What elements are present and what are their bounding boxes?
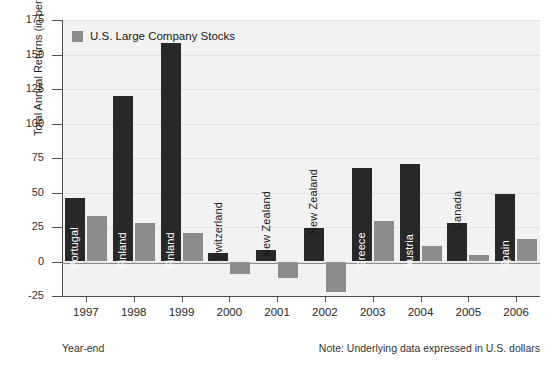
gridline [62, 20, 540, 21]
footnote-right: Note: Underlying data expressed in U.S. … [319, 342, 540, 354]
x-tick-label: 2005 [456, 306, 482, 318]
bar-us-large-company-stocks [183, 233, 203, 262]
gridline [62, 227, 540, 228]
gridline [62, 89, 540, 90]
bar-us-large-company-stocks [278, 262, 298, 279]
x-tick-label: 1999 [169, 306, 195, 318]
y-tick-mark [52, 89, 62, 90]
chart-root: -250255075100125150175 Total Annual Retu… [0, 0, 556, 366]
y-tick-label: 25 [0, 221, 44, 232]
x-tick-mark [468, 296, 469, 302]
bar-us-large-company-stocks [422, 246, 442, 261]
y-tick-mark [52, 296, 62, 297]
x-tick-mark [325, 296, 326, 302]
bar-us-large-company-stocks [374, 221, 394, 261]
x-tick-label: 2004 [408, 306, 434, 318]
gridline [62, 55, 540, 56]
bar-us-large-company-stocks [469, 255, 489, 262]
x-tick-mark [373, 296, 374, 302]
x-tick-mark [277, 296, 278, 302]
bar-country-label: Portugal [69, 227, 80, 269]
bar-country-label: Greece [356, 232, 367, 269]
bar-country-label: Canada [452, 191, 463, 230]
bar-us-large-company-stocks [230, 262, 250, 274]
x-tick-mark [421, 296, 422, 302]
x-tick-label: 1998 [121, 306, 147, 318]
y-tick-label: 50 [0, 187, 44, 198]
x-tick-mark [182, 296, 183, 302]
bar-country-label: Austria [404, 234, 415, 269]
bar-country-label: Switzerland [213, 202, 224, 260]
bar-us-large-company-stocks [517, 239, 537, 261]
x-tick-mark [516, 296, 517, 302]
legend: U.S. Large Company Stocks [72, 30, 235, 42]
y-tick-mark [52, 20, 62, 21]
x-tick-mark [134, 296, 135, 302]
bar-us-large-company-stocks [87, 216, 107, 262]
y-tick-mark [52, 262, 62, 263]
bar-country-label: Finland [165, 232, 176, 269]
x-tick-mark [86, 296, 87, 302]
bar-country-label: Finland [117, 232, 128, 269]
bar-best-country [161, 43, 181, 261]
y-tick-mark [52, 158, 62, 159]
bar-country-label: New Zealand [308, 169, 319, 235]
y-tick-mark [52, 227, 62, 228]
bar-us-large-company-stocks [326, 262, 346, 292]
y-tick-mark [52, 55, 62, 56]
gridline [62, 158, 540, 159]
y-tick-mark [52, 193, 62, 194]
gridline [62, 124, 540, 125]
gridline [62, 193, 540, 194]
x-tick-label: 2006 [503, 306, 529, 318]
legend-label: U.S. Large Company Stocks [90, 30, 235, 42]
y-axis-title: Total Annual Returns (in percent) [32, 0, 44, 156]
x-tick-label: 1997 [73, 306, 99, 318]
x-tick-label: 2001 [264, 306, 290, 318]
y-tick-mark [52, 124, 62, 125]
zero-baseline [62, 263, 540, 264]
x-tick-label: 2002 [312, 306, 338, 318]
bar-us-large-company-stocks [135, 223, 155, 262]
y-tick-label: -25 [0, 290, 44, 301]
x-tick-label: 2000 [217, 306, 243, 318]
y-axis-line [62, 20, 63, 296]
footnote-left: Year-end [62, 342, 104, 354]
x-tick-mark [229, 296, 230, 302]
legend-swatch-icon [72, 31, 83, 42]
bar-country-label: Spain [500, 240, 511, 269]
y-tick-label: 0 [0, 256, 44, 267]
bar-country-label: New Zealand [261, 192, 272, 258]
x-tick-label: 2003 [360, 306, 386, 318]
